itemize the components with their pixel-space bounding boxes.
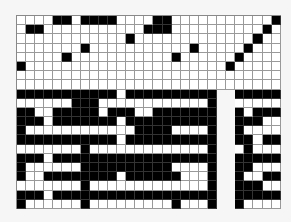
empty-cell[interactable] [126, 145, 135, 154]
filled-cell[interactable] [208, 117, 217, 126]
empty-cell[interactable] [190, 62, 199, 71]
empty-cell[interactable] [35, 145, 44, 154]
empty-cell[interactable] [181, 16, 190, 25]
empty-cell[interactable] [217, 53, 226, 62]
empty-cell[interactable] [153, 145, 162, 154]
empty-cell[interactable] [172, 16, 181, 25]
filled-cell[interactable] [153, 90, 162, 99]
empty-cell[interactable] [62, 200, 71, 209]
filled-cell[interactable] [35, 25, 44, 34]
empty-cell[interactable] [72, 16, 81, 25]
filled-cell[interactable] [244, 135, 253, 144]
filled-cell[interactable] [244, 154, 253, 163]
filled-cell[interactable] [199, 154, 208, 163]
empty-cell[interactable] [26, 163, 35, 172]
filled-cell[interactable] [153, 25, 162, 34]
empty-cell[interactable] [199, 145, 208, 154]
empty-cell[interactable] [108, 62, 117, 71]
filled-cell[interactable] [81, 145, 90, 154]
empty-cell[interactable] [35, 71, 44, 80]
empty-cell[interactable] [17, 34, 26, 43]
filled-cell[interactable] [135, 154, 144, 163]
filled-cell[interactable] [62, 108, 71, 117]
filled-cell[interactable] [90, 99, 99, 108]
filled-cell[interactable] [144, 191, 153, 200]
filled-cell[interactable] [190, 90, 199, 99]
filled-cell[interactable] [263, 108, 272, 117]
empty-cell[interactable] [108, 53, 117, 62]
empty-cell[interactable] [99, 181, 108, 190]
filled-cell[interactable] [126, 90, 135, 99]
empty-cell[interactable] [153, 53, 162, 62]
empty-cell[interactable] [235, 145, 244, 154]
filled-cell[interactable] [208, 172, 217, 181]
filled-cell[interactable] [263, 90, 272, 99]
filled-cell[interactable] [72, 154, 81, 163]
empty-cell[interactable] [117, 25, 126, 34]
empty-cell[interactable] [17, 16, 26, 25]
empty-cell[interactable] [26, 16, 35, 25]
empty-cell[interactable] [199, 16, 208, 25]
empty-cell[interactable] [163, 44, 172, 53]
empty-cell[interactable] [135, 71, 144, 80]
filled-cell[interactable] [163, 135, 172, 144]
filled-cell[interactable] [135, 172, 144, 181]
filled-cell[interactable] [62, 172, 71, 181]
empty-cell[interactable] [108, 80, 117, 89]
empty-cell[interactable] [172, 25, 181, 34]
empty-cell[interactable] [226, 53, 235, 62]
empty-cell[interactable] [62, 126, 71, 135]
filled-cell[interactable] [153, 126, 162, 135]
empty-cell[interactable] [217, 80, 226, 89]
empty-cell[interactable] [108, 44, 117, 53]
empty-cell[interactable] [17, 71, 26, 80]
filled-cell[interactable] [235, 135, 244, 144]
empty-cell[interactable] [199, 181, 208, 190]
empty-cell[interactable] [144, 80, 153, 89]
empty-cell[interactable] [272, 200, 281, 209]
empty-cell[interactable] [153, 200, 162, 209]
empty-cell[interactable] [99, 34, 108, 43]
empty-cell[interactable] [263, 62, 272, 71]
filled-cell[interactable] [99, 191, 108, 200]
filled-cell[interactable] [208, 126, 217, 135]
empty-cell[interactable] [53, 44, 62, 53]
filled-cell[interactable] [153, 163, 162, 172]
filled-cell[interactable] [235, 191, 244, 200]
empty-cell[interactable] [26, 172, 35, 181]
empty-cell[interactable] [17, 99, 26, 108]
empty-cell[interactable] [199, 62, 208, 71]
filled-cell[interactable] [172, 135, 181, 144]
empty-cell[interactable] [272, 53, 281, 62]
empty-cell[interactable] [163, 34, 172, 43]
empty-cell[interactable] [272, 145, 281, 154]
filled-cell[interactable] [17, 200, 26, 209]
empty-cell[interactable] [217, 71, 226, 80]
empty-cell[interactable] [44, 25, 53, 34]
empty-cell[interactable] [272, 126, 281, 135]
empty-cell[interactable] [81, 71, 90, 80]
filled-cell[interactable] [72, 99, 81, 108]
empty-cell[interactable] [126, 200, 135, 209]
empty-cell[interactable] [44, 34, 53, 43]
filled-cell[interactable] [208, 154, 217, 163]
filled-cell[interactable] [244, 90, 253, 99]
empty-cell[interactable] [226, 80, 235, 89]
empty-cell[interactable] [108, 181, 117, 190]
empty-cell[interactable] [244, 53, 253, 62]
empty-cell[interactable] [190, 71, 199, 80]
empty-cell[interactable] [253, 135, 262, 144]
filled-cell[interactable] [117, 108, 126, 117]
filled-cell[interactable] [99, 16, 108, 25]
empty-cell[interactable] [163, 53, 172, 62]
empty-cell[interactable] [199, 25, 208, 34]
filled-cell[interactable] [208, 181, 217, 190]
filled-cell[interactable] [26, 191, 35, 200]
filled-cell[interactable] [44, 90, 53, 99]
filled-cell[interactable] [272, 191, 281, 200]
empty-cell[interactable] [153, 71, 162, 80]
filled-cell[interactable] [90, 90, 99, 99]
filled-cell[interactable] [81, 117, 90, 126]
empty-cell[interactable] [144, 53, 153, 62]
filled-cell[interactable] [272, 172, 281, 181]
